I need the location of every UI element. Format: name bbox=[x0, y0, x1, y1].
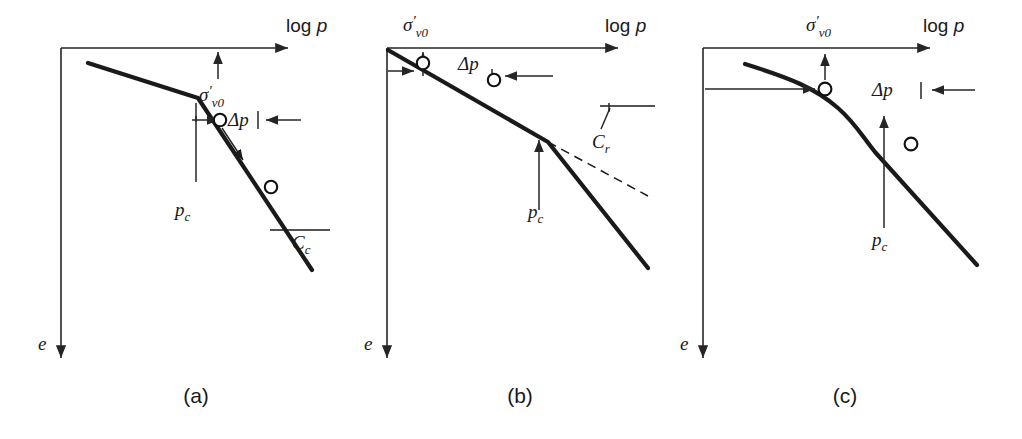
panel-a-y-axis-label: e bbox=[38, 333, 46, 354]
panel-b-pc-label: pc bbox=[526, 201, 544, 226]
panel-a-marker-final-stress bbox=[265, 181, 277, 193]
panel-b-x-axis-label: log p bbox=[605, 15, 646, 36]
panel-c-caption: (c) bbox=[833, 384, 858, 407]
panel-c-pc-label: pc bbox=[870, 229, 888, 254]
panel-b-y-axis-label: e bbox=[364, 333, 372, 354]
consolidation-curves-figure: σ′v0 Δp pc Cc lo bbox=[0, 0, 1022, 439]
panel-c-consolidation-curve bbox=[745, 64, 977, 265]
panel-a-x-axis-label: log p bbox=[286, 15, 327, 36]
panel-b-delta-p-label: Δp bbox=[457, 53, 479, 74]
panel-c-marker-sigma-v0 bbox=[819, 83, 832, 96]
panel-a-marker-sigma-v0 bbox=[214, 114, 226, 126]
panel-c-x-axis-label: log p bbox=[923, 15, 964, 36]
panel-b-cr-leader bbox=[601, 108, 610, 129]
panel-c-delta-p-label: Δp bbox=[871, 79, 893, 100]
panel-c-marker-final-stress bbox=[905, 138, 918, 151]
panel-c-y-axis-label: e bbox=[680, 333, 688, 354]
panel-a-delta-p-label: Δp bbox=[227, 109, 249, 130]
panel-b-cr-label: Cr bbox=[592, 131, 611, 156]
panel-a-pc-label: pc bbox=[173, 199, 191, 224]
panel-a-direction-arrow bbox=[222, 128, 243, 160]
panel-b-caption: (b) bbox=[507, 384, 533, 407]
panel-b-marker-final-stress bbox=[488, 74, 500, 86]
panel-a-caption: (a) bbox=[183, 384, 209, 407]
panel-b-sigma-v0-label: σ′v0 bbox=[403, 13, 428, 40]
panel-c-sigma-v0-label: σ′v0 bbox=[806, 13, 831, 40]
panel-b-consolidation-curve bbox=[388, 50, 648, 268]
panel-c: σ′v0 Δp pc log p e (c) bbox=[680, 13, 977, 407]
panel-b: σ′v0 Δp pc Cr bbox=[364, 13, 655, 407]
figure-root: σ′v0 Δp pc Cc lo bbox=[0, 0, 1022, 439]
panel-a: σ′v0 Δp pc Cc lo bbox=[38, 15, 330, 407]
panel-b-marker-sigma-v0 bbox=[417, 57, 429, 69]
